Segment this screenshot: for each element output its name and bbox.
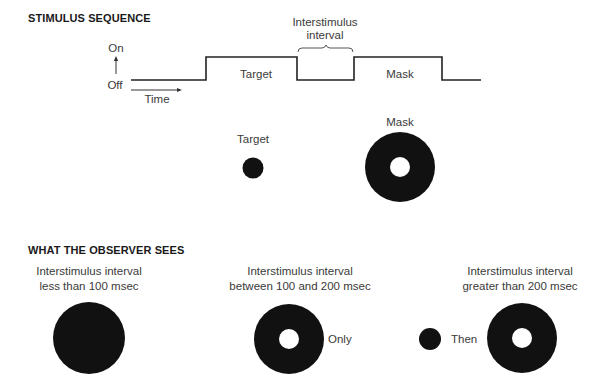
mask-pulse-label: Mask (386, 69, 413, 81)
then-dot-icon (419, 328, 441, 350)
interval-brace (298, 45, 353, 52)
solid-disk-icon (53, 302, 125, 374)
stimulus-sequence-heading: STIMULUS SEQUENCE (28, 12, 151, 24)
target-dot-icon (243, 158, 264, 179)
interval-label-line2: interval (306, 30, 343, 42)
time-arrow-head-icon (177, 88, 182, 92)
ring-only-hole (279, 329, 299, 349)
stimulus-waveform (131, 57, 481, 80)
mask-stimulus-label: Mask (386, 117, 413, 129)
diagram-graphics (0, 0, 597, 389)
on-label: On (108, 43, 123, 55)
condition-3-line1: Interstimulus interval (467, 266, 572, 278)
time-label: Time (144, 94, 169, 106)
target-pulse-label: Target (240, 69, 272, 81)
only-label: Only (328, 334, 352, 346)
condition-1-line2: less than 100 msec (39, 281, 138, 293)
off-label: Off (107, 80, 122, 92)
then-ring-hole (512, 328, 532, 348)
interval-label-line1: Interstimulus (292, 17, 357, 29)
mask-ring-hole (390, 157, 410, 177)
on-arrow-head-icon (114, 56, 118, 61)
then-label: Then (451, 334, 477, 346)
condition-1-line1: Interstimulus interval (36, 266, 141, 278)
target-stimulus-label: Target (237, 134, 269, 146)
condition-2-line1: Interstimulus interval (247, 266, 352, 278)
condition-3-line2: greater than 200 msec (462, 281, 577, 293)
condition-2-line2: between 100 and 200 msec (229, 281, 370, 293)
observer-sees-heading: WHAT THE OBSERVER SEES (28, 244, 184, 256)
